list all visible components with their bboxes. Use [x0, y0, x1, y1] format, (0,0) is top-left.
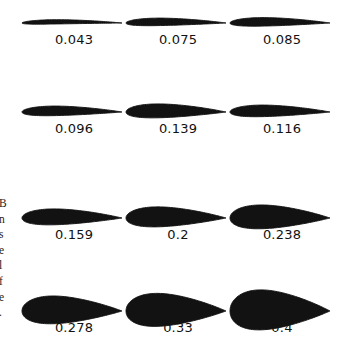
airfoil-grid: 0.0430.0750.0850.0960.1390.1160.1590.20.…: [0, 0, 341, 358]
airfoil-thickness-label: 0.159: [22, 227, 126, 242]
airfoil-section-icon: [230, 8, 334, 34]
airfoil-section-icon: [22, 97, 126, 123]
airfoil-cell: 0.159: [22, 203, 126, 247]
airfoil-cell: 0.116: [230, 97, 334, 141]
airfoil-thickness-label: 0.139: [126, 121, 230, 136]
airfoil-cell: 0.2: [126, 203, 230, 247]
airfoil-cell: 0.139: [126, 97, 230, 141]
airfoil-section-icon: [22, 8, 126, 34]
airfoil-section-icon: [126, 8, 230, 34]
airfoil-thickness-label: 0.043: [22, 32, 126, 47]
airfoil-thickness-label: 0.096: [22, 121, 126, 136]
airfoil-thickness-label: 0.33: [126, 320, 230, 335]
airfoil-section-icon: [230, 97, 334, 123]
airfoil-thickness-label: 0.075: [126, 32, 230, 47]
airfoil-cell: 0.096: [22, 97, 126, 141]
airfoil-cell: 0.4: [230, 296, 334, 340]
airfoil-section-icon: [126, 296, 230, 322]
airfoil-cell: 0.085: [230, 8, 334, 52]
airfoil-cell: 0.33: [126, 296, 230, 340]
airfoil-thickness-label: 0.278: [22, 320, 126, 335]
airfoil-thickness-label: 0.4: [230, 320, 334, 335]
airfoil-section-icon: [22, 203, 126, 229]
airfoil-thickness-label: 0.238: [230, 227, 334, 242]
airfoil-cell: 0.075: [126, 8, 230, 52]
airfoil-thickness-label: 0.085: [230, 32, 334, 47]
airfoil-section-icon: [230, 203, 334, 229]
airfoil-thickness-label: 0.2: [126, 227, 230, 242]
airfoil-section-icon: [126, 203, 230, 229]
airfoil-thickness-label: 0.116: [230, 121, 334, 136]
airfoil-cell: 0.238: [230, 203, 334, 247]
airfoil-section-icon: [126, 97, 230, 123]
airfoil-cell: 0.278: [22, 296, 126, 340]
airfoil-section-icon: [230, 296, 334, 322]
airfoil-cell: 0.043: [22, 8, 126, 52]
airfoil-section-icon: [22, 296, 126, 322]
